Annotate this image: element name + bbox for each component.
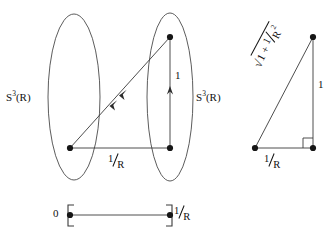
node-right-bottom: [167, 145, 173, 151]
label-vertical-unit-middle: 1: [175, 70, 181, 81]
label-base-invR-middle: 1R: [108, 152, 124, 168]
fraction-invR-middle: 1R: [108, 152, 124, 168]
diagonal-arrowhead-first: [110, 100, 118, 110]
figure-canvas: S3(R) S3(R) 1 1R 1 1R √1 + 1R2 0 1R: [0, 0, 333, 245]
node-triangle-apex: [310, 34, 316, 40]
node-right-top: [167, 34, 173, 40]
fraction-invR-interval-denominator: R: [183, 211, 190, 222]
label-interval-start: 0: [53, 208, 59, 219]
diagram-svg: [0, 0, 333, 245]
node-interval-left: [67, 212, 73, 218]
diagonal-arrowhead-second: [119, 90, 127, 100]
node-left-bottom: [67, 145, 73, 151]
label-sphere-right: S3(R): [196, 92, 221, 103]
node-interval-right: [167, 212, 173, 218]
label-triangle-base-invR: 1R: [264, 152, 280, 168]
fraction-invR-middle-denominator: R: [117, 159, 124, 170]
ellipse-sphere-left: [48, 14, 100, 180]
node-triangle-right: [310, 145, 316, 151]
fraction-invR-triangle-denominator: R: [273, 159, 280, 170]
node-triangle-left: [252, 145, 258, 151]
fraction-invR-interval: 1R: [174, 204, 190, 220]
label-triangle-vertical-unit: 1: [318, 79, 324, 90]
label-sphere-left-arg: (R): [16, 91, 31, 103]
label-sphere-left: S3(R): [6, 92, 31, 103]
label-sphere-right-arg: (R): [206, 91, 221, 103]
fraction-invR-triangle: 1R: [264, 152, 280, 168]
label-interval-end: 1R: [174, 204, 190, 220]
segment-diagonal: [70, 37, 170, 148]
